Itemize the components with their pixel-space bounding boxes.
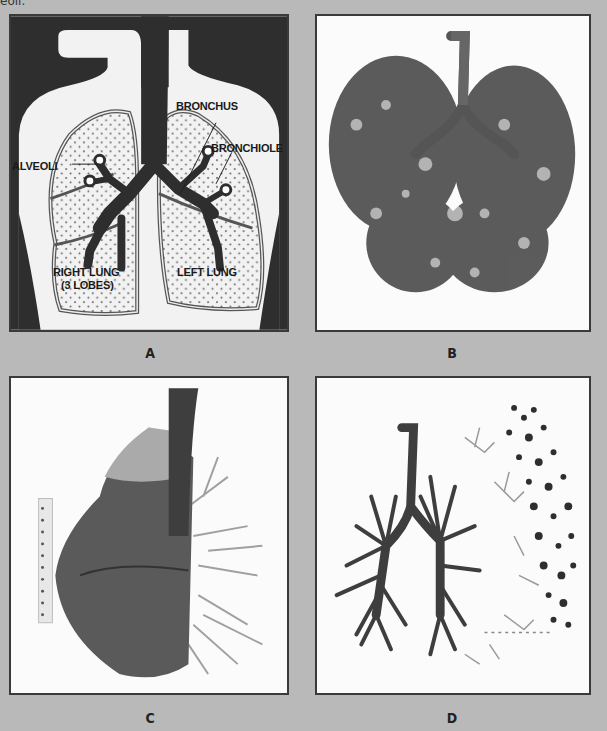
panel-b-photo [315, 14, 591, 332]
caption-d: D [432, 710, 472, 726]
bronchial-cast-image [317, 16, 589, 330]
label-right-lung-lobes: (3 LOBES) [61, 279, 114, 291]
label-left-lung: LEFT LUNG [177, 266, 237, 278]
label-alveoli: ALVEOLI [12, 160, 57, 172]
caption-c: C [130, 710, 170, 726]
panel-a-illustration: BRONCHUS ALVEOLI BRONCHIOLE RIGHT LUNG (… [9, 14, 289, 332]
label-bronchiole: BRONCHIOLE [211, 142, 283, 154]
lung-diagram [11, 16, 287, 330]
label-right-lung: RIGHT LUNG [53, 266, 119, 278]
panel-d-photo [315, 376, 591, 695]
caption-b: B [432, 345, 472, 361]
dissected-bronchial-tree-image [317, 378, 589, 693]
lung-lobe-cast-image [11, 378, 287, 693]
caption-a: A [130, 345, 170, 361]
clipped-header-text: eoli. [0, 0, 25, 8]
panel-c-photo [9, 376, 289, 695]
label-bronchus: BRONCHUS [176, 100, 238, 112]
